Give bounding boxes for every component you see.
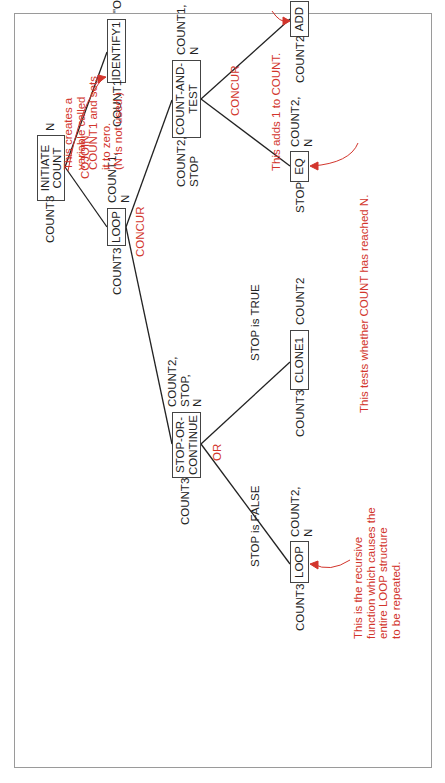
node-stop-or-continue: STOP-OR- CONTINUE [172, 412, 201, 478]
connector-concur-2: CONCUR [229, 66, 242, 116]
annotation-loop: This is the recursive function which cau… [352, 507, 402, 639]
node-loop1: LOOP [107, 208, 126, 246]
annotation-eq: This tests whether COUNT has reached N. [358, 195, 371, 413]
node-clone1: CLONE1 [290, 330, 309, 390]
label-identify-right: "O",N [111, 0, 124, 13]
label-clone-right: COUNT2 [294, 278, 307, 325]
label-eq-right: COUNT2, N [289, 97, 314, 147]
node-loop2: LOOP [290, 541, 309, 583]
node-initiate-count: INITIATE COUNT [37, 135, 65, 201]
label-stopcont-left: COUNT3 [179, 478, 192, 525]
edge-stopcont-loop2 [201, 444, 290, 564]
annotation-identify: This creates a variable called COUNT1 an… [62, 76, 125, 170]
label-loop1-left: COUNT3 [111, 248, 124, 295]
label-clone-left: COUNT3 [294, 390, 307, 437]
edge-loop-stopcont [126, 227, 172, 444]
edge-loop-counttest [126, 100, 172, 227]
label-stopcont-right: COUNT2, STOP, N [166, 357, 204, 407]
label-initiate-right: N [44, 123, 57, 131]
arrowhead-loop [310, 561, 318, 569]
connector-or: OR [211, 444, 224, 461]
node-add: ADD [290, 1, 309, 37]
edge-stopcont-clone [201, 362, 290, 444]
diagram-canvas: INITIATE COUNT COUNT3 N IDENTIFY1 COUNT1… [0, 0, 445, 783]
arrowhead-add [283, 17, 290, 25]
label-loop2-left: COUNT3 [294, 584, 307, 631]
node-eq: EQ [290, 151, 309, 182]
annotation-add: This adds 1 to COUNT. [270, 53, 283, 171]
arrowhead-eq [310, 162, 318, 170]
label-counttest-right: COUNT1, N [175, 5, 200, 55]
node-count-and-test: COUNT-AND- TEST [172, 60, 201, 138]
connector-concur-1: CONCUR [134, 207, 147, 257]
label-eq-left: STOP [294, 182, 307, 213]
branch-stop-true: STOP is TRUE [249, 284, 262, 361]
label-loop2-right: COUNT2, N [289, 487, 314, 537]
label-initiate-left: COUNT3 [44, 196, 57, 243]
branch-stop-false: STOP is FALSE [249, 486, 262, 567]
label-counttest-left: COUNT2, STOP [175, 137, 200, 187]
node-identify1: IDENTIFY1 [107, 19, 126, 83]
arrow-loop-note [313, 560, 350, 568]
label-add-left: COUNT2 [294, 36, 307, 83]
arrow-eq-note [312, 143, 358, 166]
